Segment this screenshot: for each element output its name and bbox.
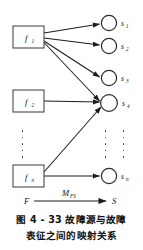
ellipsis-dot (22, 150, 24, 152)
node-sn-circle (101, 168, 116, 183)
ellipsis-dot (22, 156, 24, 158)
node-f1-subscript: 1 (32, 38, 35, 44)
ellipsis-dot (105, 143, 107, 145)
ellipsis-dot (22, 130, 24, 132)
node-s1-circle (101, 15, 116, 30)
figure-caption: 图 4 - 33 故障源与故障 表征之间的映射关系 (0, 212, 143, 242)
node-s2-subscript: 2 (126, 46, 129, 52)
mapping-diagram: f 1 f 2 f n s 1 s 2 s 3 (0, 0, 143, 213)
node-f2[interactable]: f 2 (13, 90, 44, 112)
node-s1[interactable]: s 1 (101, 15, 128, 30)
node-s4-circle (101, 95, 118, 112)
ellipsis-dot (105, 150, 107, 152)
node-sn-subscript: n (126, 176, 129, 182)
summary-mapping-arrow: F M FS S (23, 188, 117, 206)
node-fn[interactable]: f n (13, 165, 44, 187)
node-s3-label: s (121, 74, 124, 83)
node-s2-label: s (121, 42, 124, 51)
figure-caption-line-2: 表征之间的映射关系 (0, 229, 143, 242)
node-fn-box (13, 165, 44, 187)
summary-to-label: S (112, 196, 117, 206)
node-s3-circle (101, 70, 116, 85)
summary-from-label: F (23, 196, 30, 206)
node-s2-circle (101, 38, 116, 53)
node-s1-label: s (121, 19, 124, 28)
ellipsis-dot (105, 137, 107, 139)
edge-f1-s1 (44, 24, 100, 33)
figure-container: f 1 f 2 f n s 1 s 2 s 3 (0, 0, 143, 250)
node-sn[interactable]: s n (101, 168, 129, 183)
edge-f2-s4 (44, 101, 100, 102)
vertical-ellipsis-left (19, 130, 26, 158)
node-f1[interactable]: f 1 (13, 26, 44, 48)
node-f1-box (13, 26, 44, 48)
node-s4-label: s (122, 99, 125, 108)
node-s4-subscript: 4 (127, 103, 130, 109)
node-s1-subscript: 1 (126, 23, 129, 29)
node-s4[interactable]: s 4 (101, 95, 130, 112)
ellipsis-dot (123, 137, 125, 139)
ellipsis-dot (123, 143, 125, 145)
node-sn-label: s (121, 172, 124, 181)
vertical-ellipsis-right-inner (102, 130, 109, 158)
ellipsis-dot (123, 150, 125, 152)
ellipsis-dot (105, 130, 107, 132)
ellipsis-dot (123, 156, 125, 158)
ellipsis-dot (105, 156, 107, 158)
vertical-ellipsis-right-outer (120, 130, 127, 158)
node-f2-box (13, 90, 44, 112)
figure-caption-line-1: 图 4 - 33 故障源与故障 (0, 213, 143, 226)
edge-f1-s2 (44, 38, 100, 45)
node-s3-subscript: 3 (126, 78, 129, 84)
ellipsis-dot (22, 137, 24, 139)
summary-mapping-label: M (61, 188, 70, 198)
ellipsis-dot (22, 143, 24, 145)
node-s2[interactable]: s 2 (101, 38, 129, 53)
ellipsis-dot (123, 130, 125, 132)
node-s3[interactable]: s 3 (101, 70, 129, 85)
summary-mapping-subscript: FS (69, 193, 76, 199)
edge-fn-s4 (44, 107, 101, 172)
